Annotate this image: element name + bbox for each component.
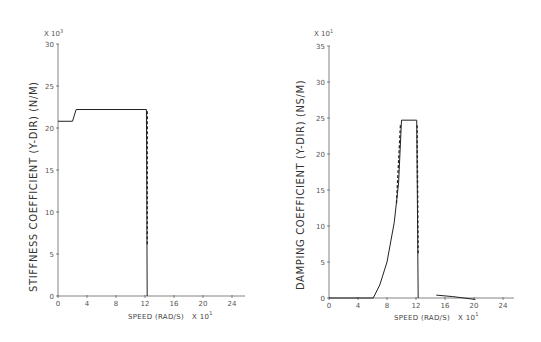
damping-tail-line (436, 295, 475, 299)
y-tick-label: 20 (316, 151, 325, 159)
x-tick-label: 24 (228, 300, 237, 308)
stiffness-chart: X 103 05101520253004812162024 STIFFNESS … (28, 28, 245, 321)
y-tick-label: 25 (45, 83, 54, 91)
damping-axes: 0510152025303504812162024 (316, 43, 514, 311)
y-tick-label: 15 (45, 167, 54, 175)
damping-series (329, 120, 475, 299)
y-tick-label: 10 (316, 223, 325, 231)
y-tick-label: 35 (316, 43, 325, 51)
damping-x-axis-label: SPEED (RAD/S)X 101 (394, 311, 479, 322)
x-tick-label: 0 (327, 302, 331, 310)
x-tick-label: 0 (56, 300, 60, 308)
y-multiplier-right: X 101 (314, 28, 333, 38)
x-tick-label: 16 (441, 302, 450, 310)
x-tick-label: 4 (85, 300, 90, 308)
y-tick-label: 10 (45, 209, 54, 217)
y-tick-label: 5 (50, 251, 54, 259)
y-tick-label: 0 (321, 295, 325, 303)
y-tick-label: 30 (45, 41, 54, 49)
x-tick-label: 12 (141, 300, 150, 308)
y-tick-label: 15 (316, 187, 325, 195)
y-tick-label: 5 (321, 259, 325, 267)
figure-canvas: X 103 05101520253004812162024 STIFFNESS … (0, 0, 541, 342)
x-tick-label: 4 (356, 302, 361, 310)
x-tick-label: 8 (114, 300, 118, 308)
y-tick-label: 30 (316, 79, 325, 87)
stiffness-x-axis-label: SPEED (RAD/S)X 101 (128, 310, 213, 321)
damping-chart: X 101 0510152025303504812162024 DAMPING … (295, 28, 514, 322)
x-tick-label: 24 (499, 302, 508, 310)
x-tick-label: 20 (470, 302, 479, 310)
stiffness-series (58, 110, 147, 296)
damping-line (329, 120, 418, 298)
x-tick-label: 12 (412, 302, 421, 310)
stiffness-y-axis-label: STIFFNESS COEFFICIENT (Y-DIR) (N/M) (28, 81, 39, 292)
damping-y-axis-label: DAMPING COEFFICIENT (Y-DIR) (NS/M) (295, 80, 306, 290)
x-tick-label: 20 (199, 300, 208, 308)
y-tick-label: 20 (45, 125, 54, 133)
y-tick-label: 0 (50, 293, 54, 301)
stiffness-line (58, 110, 147, 296)
y-multiplier-left: X 103 (44, 28, 63, 38)
x-tick-label: 8 (385, 302, 389, 310)
stiffness-axes: 05101520253004812162024 (45, 41, 245, 309)
y-tick-label: 25 (316, 115, 325, 123)
x-tick-label: 16 (170, 300, 179, 308)
